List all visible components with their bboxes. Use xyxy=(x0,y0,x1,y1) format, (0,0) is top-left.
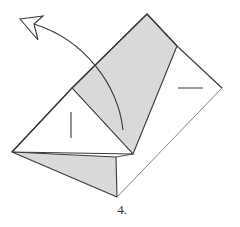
bottom-flap xyxy=(12,152,117,197)
step-number: 4. xyxy=(110,202,134,218)
diagram-canvas xyxy=(0,0,240,227)
fold-arrow-head-icon xyxy=(20,16,43,40)
